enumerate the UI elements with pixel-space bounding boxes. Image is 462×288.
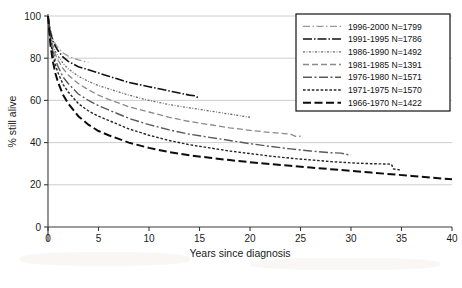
y-tick-label-40: 40 [30, 137, 42, 148]
legend-label-1971-1975: 1971-1975 N=1570 [348, 85, 422, 95]
legend-label-1986-1990: 1986-1990 N=1492 [348, 47, 422, 57]
x-tick-label-35: 35 [396, 233, 408, 244]
legend-label-1976-1980: 1976-1980 N=1571 [348, 72, 422, 82]
y-tick-label-100: 100 [24, 11, 41, 22]
series-curve-1981-1985 [48, 16, 301, 136]
x-axis-title: Years since diagnosis [189, 247, 290, 259]
chart-figure: 0204060801000510152025303540Years since … [0, 0, 462, 288]
series-curve-1991-1995 [48, 16, 200, 98]
legend-label-1996-2000: 1996-2000 N=1799 [348, 22, 422, 32]
x-tick-label-0: 0 [45, 233, 51, 244]
scan-artifact [250, 258, 440, 270]
x-tick-label-5: 5 [96, 233, 102, 244]
x-tick-label-30: 30 [345, 233, 357, 244]
x-tick-label-15: 15 [194, 233, 206, 244]
survival-curves-chart: 0204060801000510152025303540Years since … [0, 0, 462, 288]
x-tick-label-10: 10 [143, 233, 155, 244]
y-axis-title: % still alive [6, 95, 18, 147]
legend-label-1991-1995: 1991-1995 N=1786 [348, 34, 422, 44]
x-tick-label-25: 25 [295, 233, 307, 244]
legend-label-1966-1970: 1966-1970 N=1422 [348, 98, 422, 108]
x-tick-label-20: 20 [244, 233, 256, 244]
y-tick-label-80: 80 [30, 53, 42, 64]
y-tick-label-60: 60 [30, 95, 42, 106]
x-tick-label-40: 40 [446, 233, 458, 244]
legend-label-1981-1985: 1981-1985 N=1391 [348, 60, 422, 70]
scan-artifact [20, 252, 190, 266]
y-tick-label-0: 0 [35, 222, 41, 233]
y-tick-label-20: 20 [30, 179, 42, 190]
